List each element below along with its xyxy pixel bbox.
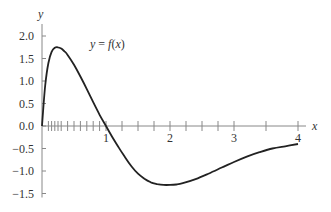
x-tick-label: 1: [103, 131, 109, 145]
y-tick-label: 1.5: [19, 52, 34, 66]
y-tick-label: 1.0: [19, 74, 34, 88]
y-tick-label: −1.0: [12, 164, 34, 178]
y-tick-label: 2.0: [19, 29, 34, 43]
y-axis-label: y: [37, 7, 44, 21]
x-axis-label: x: [311, 119, 318, 133]
y-axis-ticks: 2.01.51.00.50.0−0.5−1.0−1.5: [12, 29, 46, 201]
axes: [42, 24, 306, 198]
function-graph: 2.01.51.00.50.0−0.5−1.0−1.5 1234 y x y =…: [0, 0, 331, 212]
curve-label: y = f(x): [89, 37, 125, 51]
x-axis-ticks: 1234: [48, 121, 301, 145]
y-tick-label: −1.5: [12, 187, 34, 201]
x-tick-label: 3: [231, 131, 237, 145]
y-tick-label: 0.5: [19, 97, 34, 111]
x-tick-label: 4: [295, 131, 301, 145]
function-curve: [42, 47, 298, 185]
y-tick-label: −0.5: [12, 142, 34, 156]
y-tick-label: 0.0: [19, 119, 34, 133]
x-tick-label: 2: [167, 131, 173, 145]
